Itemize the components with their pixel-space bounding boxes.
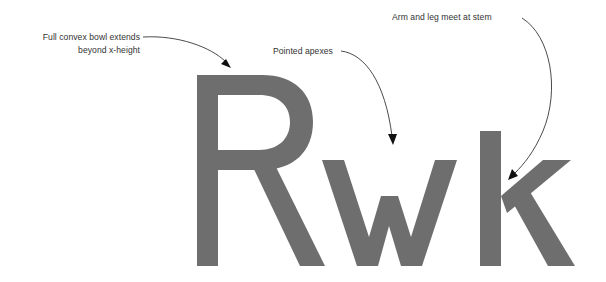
specimen-diagram-canvas: Full convex bowl extendsbeyond x-height … xyxy=(0,0,606,282)
annotation-arrows xyxy=(0,0,606,282)
arrow-apexes xyxy=(341,51,397,145)
arrow-bowl xyxy=(143,37,231,68)
arrow-arm xyxy=(508,18,552,180)
